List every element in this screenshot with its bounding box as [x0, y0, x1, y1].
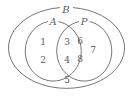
set-label-P: P: [80, 16, 88, 27]
element-3: 3: [64, 37, 70, 47]
element-7: 7: [90, 45, 96, 55]
circle-P: [57, 22, 112, 81]
element-2: 2: [40, 55, 46, 65]
circle-A-arc: [25, 22, 81, 81]
venn-diagram-canvas: B A P 1 2 3 4 6 7 8 5: [0, 0, 135, 96]
element-6: 6: [77, 36, 83, 46]
venn-diagram-figure: B A P 1 2 3 4 6 7 8 5: [0, 0, 135, 96]
set-label-B: B: [61, 4, 69, 15]
element-4: 4: [64, 55, 70, 65]
circle-P-arc: [57, 22, 112, 81]
circle-A: [25, 22, 81, 81]
element-5: 5: [64, 75, 70, 85]
element-8: 8: [77, 54, 83, 64]
element-1: 1: [40, 37, 46, 47]
set-label-A: A: [48, 16, 56, 27]
